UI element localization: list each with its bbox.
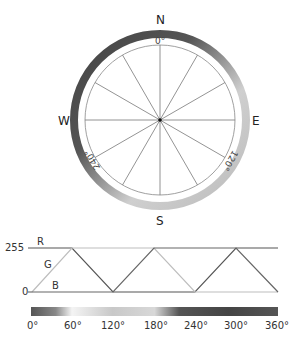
hue-tick-60: 60° bbox=[64, 321, 82, 331]
hue-wheel bbox=[74, 34, 246, 206]
series-label-g: G bbox=[44, 260, 52, 270]
diagram-canvas bbox=[0, 0, 302, 347]
hue-tick-240: 240° bbox=[184, 321, 208, 331]
label-west: W bbox=[58, 115, 70, 127]
y-label-255: 255 bbox=[5, 243, 24, 253]
label-east: E bbox=[252, 115, 260, 127]
center-dot bbox=[158, 118, 162, 122]
hue-tick-0: 0° bbox=[27, 321, 38, 331]
hue-gradient-bar bbox=[31, 307, 278, 316]
series-g bbox=[32, 248, 278, 292]
degree-mark-0: 0° bbox=[155, 37, 165, 46]
y-label-0: 0 bbox=[22, 287, 28, 297]
series-b bbox=[32, 248, 278, 292]
hue-tick-300: 300° bbox=[224, 321, 248, 331]
hue-tick-360: 360° bbox=[265, 321, 289, 331]
hue-tick-120: 120° bbox=[101, 321, 125, 331]
series-r bbox=[32, 248, 278, 292]
rgb-graph bbox=[28, 248, 278, 292]
label-south: S bbox=[156, 215, 164, 227]
hue-tick-180: 180° bbox=[144, 321, 168, 331]
series-label-r: R bbox=[37, 237, 44, 247]
label-north: N bbox=[156, 14, 165, 26]
series-label-b: B bbox=[52, 281, 59, 291]
